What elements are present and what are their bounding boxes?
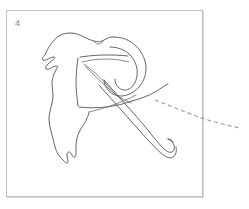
screenshot-stage: 4 line-art glyph sketch: [0, 0, 249, 209]
panel-index-label: 4: [15, 18, 20, 29]
sketch-panel[interactable]: 4: [6, 10, 203, 197]
